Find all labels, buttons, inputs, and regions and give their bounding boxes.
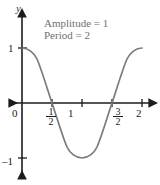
tick-label-x-two: 2	[136, 107, 142, 119]
tick-label-x-one: 1	[68, 107, 74, 119]
fraction-denominator: 2	[111, 117, 125, 126]
tick-label-origin: 0	[12, 107, 18, 119]
annotation-period: Period = 2	[44, 29, 108, 41]
cosine-graph-figure: y Amplitude = 1 Period = 2 0 1 –1 1 2 1 …	[0, 0, 160, 185]
tick-label-y-negative-one: –1	[2, 155, 13, 167]
tick-label-y-one: 1	[8, 42, 14, 54]
fraction-numerator: 1	[44, 107, 58, 116]
annotation-amplitude: Amplitude = 1	[44, 17, 108, 29]
y-axis-label: y	[16, 2, 21, 14]
fraction-denominator: 2	[44, 117, 58, 126]
fraction-numerator: 3	[111, 107, 125, 116]
tick-label-x-three-halves: 3 2	[111, 107, 125, 126]
tick-label-x-one-half: 1 2	[44, 107, 58, 126]
annotation-group: Amplitude = 1 Period = 2	[44, 17, 108, 41]
